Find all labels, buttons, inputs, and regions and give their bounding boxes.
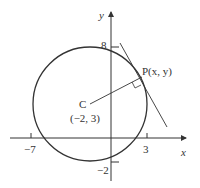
tick-label-y-neg2: −2: [97, 164, 109, 176]
tick-label-x-3: 3: [143, 143, 149, 155]
circle-tangent-diagram: y x 8 −2 −7 3 C (−2, 3) P(x, y): [0, 0, 200, 188]
right-angle-marker: [132, 82, 141, 88]
tick-label-y-8: 8: [101, 39, 107, 51]
radius-line: [90, 77, 142, 104]
point-label: P(x, y): [142, 65, 172, 78]
center-coords: (−2, 3): [70, 112, 100, 125]
tick-label-x-neg7: −7: [24, 143, 36, 155]
center-label: C: [79, 98, 86, 110]
x-axis-label: x: [180, 146, 186, 158]
y-axis-label: y: [98, 9, 104, 21]
